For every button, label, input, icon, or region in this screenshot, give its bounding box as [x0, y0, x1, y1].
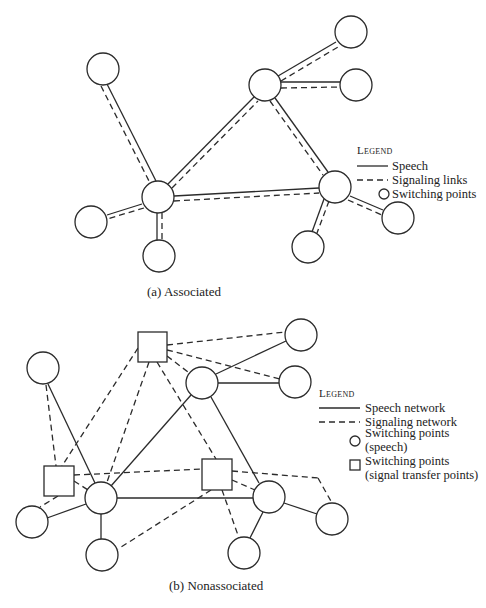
switching-point-circle [75, 206, 107, 238]
legend-title: Legend [357, 144, 393, 156]
signal-transfer-point-square [138, 332, 167, 362]
signaling-diagrams: Legend Speech Signaling links Switching … [0, 0, 486, 608]
signaling-network-links [40, 332, 332, 549]
switching-point-circle [340, 69, 372, 101]
nonassociated-legend: Legend Speech network Signaling network … [319, 387, 478, 482]
legend-item-label: Switching points [392, 187, 477, 201]
switching-point-circle [249, 69, 281, 101]
switching-point-circle [319, 171, 351, 203]
legend-item-label: Switching points [365, 426, 450, 440]
switching-point-circle [27, 352, 59, 384]
caption-associated: (a) Associated [147, 284, 222, 299]
switching-point-circle [253, 481, 285, 513]
legend-item-label: Signaling links [392, 173, 467, 187]
switching-point-circle [279, 366, 311, 398]
switching-point-circle [85, 482, 117, 514]
switching-point-circle [335, 16, 367, 48]
legend-item-label: Speech network [365, 401, 446, 415]
caption-nonassociated: (b) Nonassociated [169, 578, 264, 593]
legend-item-sublabel: (speech) [365, 440, 407, 454]
associated-legend: Legend Speech Signaling links Switching … [357, 144, 477, 201]
switching-point-circle [285, 319, 317, 351]
switching-point-circle [143, 240, 175, 272]
signal-transfer-point-icon [350, 460, 360, 470]
nonassociated-diagram: Legend Speech network Signaling network … [16, 319, 478, 593]
switching-point-circle [292, 231, 324, 263]
switching-point-icon [350, 436, 360, 446]
switching-point-icon [379, 189, 389, 199]
switching-point-circle [87, 53, 119, 85]
switching-point-circle [142, 181, 174, 213]
switching-point-circle [16, 506, 48, 538]
signal-transfer-point-square [202, 459, 232, 490]
signal-transfer-point-square [44, 466, 74, 496]
switching-point-circle [228, 537, 260, 569]
switching-point-circle [316, 503, 348, 535]
speech-switching-points [16, 319, 348, 571]
switching-point-circle [86, 539, 118, 571]
legend-title: Legend [319, 387, 355, 399]
legend-item-sublabel: (signal transfer points) [365, 468, 478, 482]
switching-point-circle [382, 202, 414, 234]
associated-links [101, 42, 383, 240]
switching-point-circle [186, 367, 218, 399]
legend-item-label: Switching points [365, 454, 450, 468]
legend-item-label: Speech [392, 159, 429, 173]
associated-diagram: Legend Speech Signaling links Switching … [75, 16, 477, 299]
